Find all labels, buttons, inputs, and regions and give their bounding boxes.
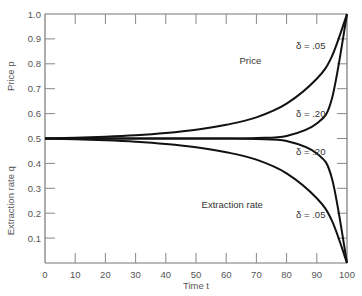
y-tick-label: 0.3 — [28, 183, 41, 194]
x-tick-label: 100 — [339, 269, 355, 280]
y-axis-label-extraction: Extraction rate q — [5, 166, 16, 235]
y-tick-label: 0.7 — [28, 83, 41, 94]
price-curve-d05 — [45, 14, 347, 139]
x-tick-label: 0 — [42, 269, 47, 280]
curves — [45, 14, 347, 263]
annotation: δ = .20 — [296, 108, 325, 119]
x-tick-label: 20 — [100, 269, 111, 280]
y-axis-label-price: Price p — [5, 61, 16, 91]
labels: 01020304050607080901000.10.20.30.40.50.6… — [5, 9, 355, 292]
y-tick-label: 0.9 — [28, 33, 41, 44]
x-tick-label: 70 — [251, 269, 262, 280]
annotation: δ = .05 — [296, 40, 325, 51]
y-tick-label: 0.2 — [28, 208, 41, 219]
x-tick-label: 10 — [70, 269, 81, 280]
x-tick-label: 80 — [281, 269, 292, 280]
annotation: Extraction rate — [202, 199, 263, 210]
x-tick-label: 60 — [221, 269, 232, 280]
price-curve-d20 — [45, 14, 347, 139]
x-tick-label: 50 — [191, 269, 202, 280]
y-tick-label: 0.5 — [28, 133, 41, 144]
x-tick-label: 90 — [312, 269, 323, 280]
y-tick-label: 0.1 — [28, 233, 41, 244]
annotation: δ = .05 — [296, 209, 325, 220]
annotation: Price — [240, 55, 262, 66]
y-tick-label: 0.8 — [28, 58, 41, 69]
extraction-curve-d20 — [45, 138, 347, 263]
extraction-curve-d05 — [45, 139, 347, 264]
y-tick-label: 1.0 — [28, 9, 41, 20]
chart: 01020304050607080901000.10.20.30.40.50.6… — [0, 0, 362, 296]
y-tick-label: 0.6 — [28, 108, 41, 119]
x-axis-label: Time t — [183, 280, 209, 291]
x-tick-label: 30 — [130, 269, 141, 280]
y-tick-label: 0.4 — [28, 158, 41, 169]
annotation: δ = .20 — [296, 146, 325, 157]
x-tick-label: 40 — [161, 269, 172, 280]
